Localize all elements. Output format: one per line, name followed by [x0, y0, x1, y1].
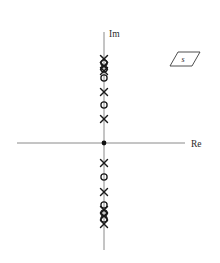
imaginary-axis-label: Im — [109, 29, 120, 39]
plot-canvas: Im Re s — [0, 0, 220, 263]
s-plane-badge: s — [170, 52, 200, 66]
real-axis-label: Re — [191, 139, 202, 149]
s-plane-badge-label: s — [181, 55, 184, 64]
s-plane-badge-parallelogram — [170, 52, 200, 66]
pole-zero-plot: Im Re s — [0, 0, 220, 263]
origin-dot — [102, 141, 107, 146]
